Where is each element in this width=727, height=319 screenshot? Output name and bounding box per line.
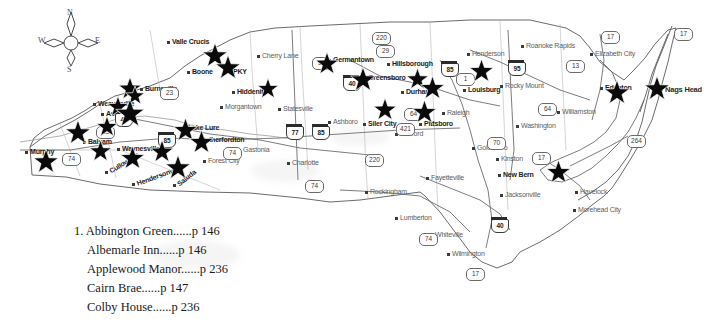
highway-shield-us: 17 (674, 28, 693, 41)
highway-shield-us: 74 (223, 147, 242, 160)
city-dot (575, 191, 578, 194)
city-label: Raleigh (447, 109, 469, 116)
city-label: Louisburg (468, 86, 500, 93)
city-dot (496, 158, 499, 161)
city-dot (557, 111, 560, 114)
highway-shield-interstate: 95 (508, 62, 526, 76)
inn-star-marker-saluda (165, 155, 191, 181)
highway-shield-us: 17 (466, 268, 485, 281)
city-dot (516, 125, 519, 128)
city-label: Henderson (472, 50, 504, 57)
inn-star-marker-louisburg (469, 59, 494, 84)
legend-item: 1. Abbington Green......p 146 (74, 222, 228, 241)
city-label: Hillsborough (392, 60, 433, 67)
inn-star-marker-durham (420, 76, 445, 101)
city-label: Roanoke Rapids (526, 42, 575, 49)
highway-shield-us: 421 (396, 123, 415, 136)
city-dot (498, 174, 501, 177)
city-label: Havelock (580, 188, 607, 195)
highway-shield-us: 220 (372, 32, 391, 45)
city-label: Washington (521, 122, 556, 129)
map-page: N S W E MurphyBalsamWaynesvilleCullowhee… (0, 0, 727, 319)
highway-shield-us: 70 (487, 137, 506, 150)
city-dot (600, 87, 603, 90)
city-label: Williamston (562, 108, 596, 115)
city-label: Morgantown (225, 103, 262, 110)
city-label: Jacksonville (505, 191, 540, 198)
city-dot (426, 177, 429, 180)
inn-star-marker-asheville-3 (96, 116, 118, 138)
compass-north-label: N (67, 8, 73, 17)
compass-west-label: W (38, 36, 46, 45)
city-dot (25, 151, 28, 154)
inn-star-marker-boone (215, 55, 241, 81)
highway-shield-us: 17 (601, 31, 620, 44)
city-dot (467, 53, 470, 56)
city-dot (105, 171, 108, 174)
compass-east-label: E (95, 36, 100, 45)
city-label: Morehead City (578, 206, 621, 213)
highway-shield-us: 23 (160, 87, 179, 100)
city-dot (590, 53, 593, 56)
city-dot (287, 162, 290, 165)
city-dot (500, 194, 503, 197)
city-dot (463, 89, 466, 92)
highway-shield-us: 220 (365, 154, 384, 167)
city-label: Kinston (501, 155, 523, 162)
city-label: Nags Head (665, 85, 702, 94)
city-dot (173, 184, 176, 187)
city-label: Statesville (283, 105, 313, 112)
city-label: Rocky Mount (505, 82, 544, 89)
inn-star-marker-pittsboro (412, 100, 437, 125)
highway-shield-us: 264 (627, 135, 646, 148)
city-dot (132, 183, 135, 186)
city-label: Germantown (333, 56, 374, 63)
inn-legend-list: 1. Abbington Green......p 146Albemarle I… (74, 222, 228, 317)
scan-artifact (330, 128, 390, 146)
highway-shield-us: 74 (419, 233, 438, 246)
inn-star-marker-greensboro (350, 67, 376, 93)
city-label: Gastonia (243, 146, 269, 153)
city-dot (93, 103, 96, 106)
inn-star-marker-nags-head (644, 76, 670, 102)
inn-star-marker-murphy (33, 149, 59, 175)
highway-shield-interstate: 40 (491, 219, 509, 233)
city-dot (387, 63, 390, 66)
inn-star-marker-hiddenite (257, 78, 279, 100)
inn-star-marker-germantown (315, 52, 339, 76)
city-label: Cherry Lane (262, 52, 298, 59)
city-dot (365, 191, 368, 194)
city-dot (363, 123, 366, 126)
highway-shield-interstate: 85 (312, 126, 330, 140)
inn-star-marker-siler-city (373, 98, 397, 122)
city-dot (220, 106, 223, 109)
inn-star-marker-rutherfordton (189, 130, 214, 155)
city-dot (447, 253, 450, 256)
compass-south-label: S (67, 65, 71, 74)
legend-item: Colby House......p 236 (74, 298, 228, 317)
city-dot (395, 217, 398, 220)
city-dot (187, 71, 190, 74)
city-label: Boone (192, 68, 213, 75)
city-label: New Bern (503, 171, 534, 178)
city-dot (521, 45, 524, 48)
legend-item: Cairn Brae......p 147 (74, 279, 228, 298)
city-dot (278, 108, 281, 111)
city-dot (232, 91, 235, 94)
city-label: Lumberton (400, 214, 432, 221)
city-dot (573, 209, 576, 212)
city-dot (257, 55, 260, 58)
city-label: Whiteville (435, 231, 463, 238)
inn-star-marker-asheville-2 (115, 99, 145, 129)
inn-star-marker-balsam (65, 120, 91, 146)
highway-shield-us: 64 (538, 103, 557, 116)
inn-star-marker-waynesville (89, 140, 112, 163)
legend-item: Albemarle Inn......p 146 (74, 241, 228, 260)
city-label: Elizabeth City (595, 50, 635, 57)
city-dot (500, 85, 503, 88)
highway-shield-us: 74 (305, 180, 324, 193)
city-dot (401, 91, 404, 94)
highway-shield-us: 74 (62, 153, 81, 166)
city-dot (203, 160, 206, 163)
city-label: Fayetteville (431, 174, 464, 181)
